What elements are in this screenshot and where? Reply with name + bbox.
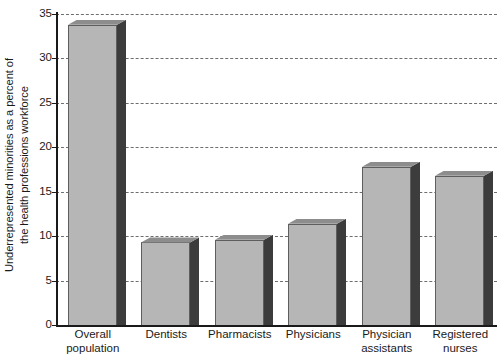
bar-body (435, 171, 493, 325)
bar-side-face (190, 237, 199, 325)
x-axis-category-label: Physicians (277, 328, 351, 342)
x-axis-category-labels: OverallpopulationDentistsPharmacistsPhys… (56, 328, 497, 364)
bar-front-face (288, 224, 337, 325)
y-axis-tick-label: 0 (26, 319, 52, 331)
x-axis-category-label: Overallpopulation (56, 328, 130, 355)
y-axis-tick-labels: 05101520253035 (26, 0, 52, 340)
x-axis-category-label: Pharmacists (203, 328, 277, 342)
bar-chart-figure: Underrepresented minorities as a percent… (0, 0, 504, 364)
x-axis-category-label: Registerednurses (424, 328, 498, 355)
bar[interactable] (68, 20, 126, 325)
plot-area (56, 14, 497, 325)
category-label-line: Physician (350, 328, 424, 342)
bar-side-face (484, 171, 493, 325)
y-axis-tick-label: 30 (26, 53, 52, 65)
category-label-line: nurses (424, 342, 498, 356)
x-axis-category-label: Physicianassistants (350, 328, 424, 355)
bar-front-face (68, 25, 117, 325)
category-label-line: Overall (56, 328, 130, 342)
bar-front-face (141, 242, 190, 325)
y-axis-tick-label: 15 (26, 186, 52, 198)
bar-body (141, 237, 199, 325)
y-axis-tick-label: 20 (26, 142, 52, 154)
category-label-line: population (56, 342, 130, 356)
category-label-line: assistants (350, 342, 424, 356)
bar[interactable] (288, 219, 346, 325)
bar[interactable] (141, 237, 199, 325)
bar-body (68, 20, 126, 325)
bar-front-face (435, 176, 484, 325)
bar-side-face (117, 20, 126, 325)
bar[interactable] (215, 235, 273, 325)
x-axis-line (56, 325, 497, 327)
y-axis-title-line-1: Underrepresented minorities as a percent… (2, 58, 17, 272)
category-label-line: Dentists (130, 328, 204, 342)
category-label-line: Pharmacists (203, 328, 277, 342)
y-axis-tick-label: 5 (26, 275, 52, 287)
bar-side-face (411, 162, 420, 325)
y-axis-tick-label: 35 (26, 8, 52, 20)
bar-side-face (264, 235, 273, 325)
bar-body (215, 235, 273, 325)
y-axis-tick-label: 10 (26, 230, 52, 242)
y-axis-tick-label: 25 (26, 97, 52, 109)
bar-series (56, 14, 497, 325)
bar-body (288, 219, 346, 325)
bar-front-face (215, 240, 264, 325)
bar-side-face (337, 219, 346, 325)
category-label-line: Registered (424, 328, 498, 342)
category-label-line: Physicians (277, 328, 351, 342)
x-axis-category-label: Dentists (130, 328, 204, 342)
bar-front-face (362, 167, 411, 325)
bar[interactable] (362, 162, 420, 325)
bar-body (362, 162, 420, 325)
bar[interactable] (435, 171, 493, 325)
